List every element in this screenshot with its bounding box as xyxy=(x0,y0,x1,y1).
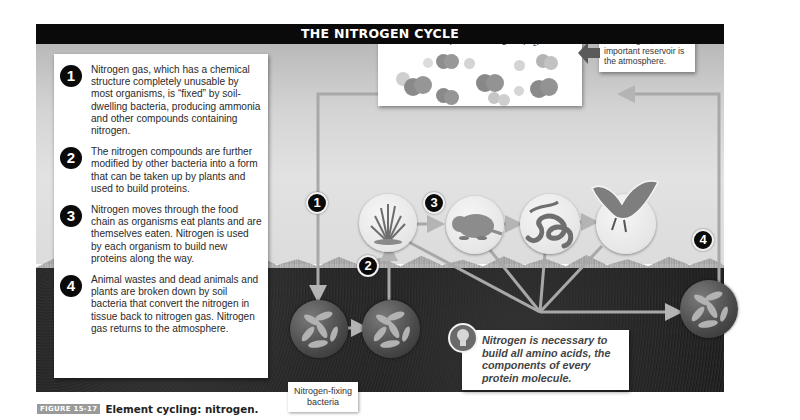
n2-molecule-icon xyxy=(444,90,459,105)
n2-molecule-icon xyxy=(444,54,459,69)
hawk-icon xyxy=(596,194,656,254)
diagram-badge-3: 3 xyxy=(423,192,445,214)
step-text: Animal wastes and dead animals and plant… xyxy=(91,274,262,335)
step-4: 4 Animal wastes and dead animals and pla… xyxy=(60,274,262,335)
amino-acid-note: Nitrogen is necessary to build all amino… xyxy=(462,330,629,390)
figure-number-tag: FIGURE 15-17 xyxy=(37,404,100,414)
nitrifying-bacteria-icon xyxy=(362,300,420,358)
figure-caption-text: Element cycling: nitrogen. xyxy=(105,403,258,415)
nitrogen-fixing-bacteria-label: Nitrogen-fixing bacteria xyxy=(288,382,358,412)
decomposer-bacteria-icon xyxy=(680,280,738,338)
n2-molecule-icon xyxy=(464,58,475,69)
n2-molecule-icon xyxy=(414,76,432,94)
n2-molecule-icon xyxy=(514,60,525,71)
step-2: 2 The nitrogen compounds are further mod… xyxy=(60,146,262,195)
nitrogen-fixing-bacteria-icon xyxy=(290,300,348,358)
step-number-badge: 2 xyxy=(60,147,82,169)
diagram-badge-4: 4 xyxy=(692,229,714,251)
n2-molecule-icon xyxy=(423,58,433,68)
step-text: Nitrogen gas, which has a chemical struc… xyxy=(91,64,262,137)
step-number-badge: 3 xyxy=(60,205,82,227)
step-text: The nitrogen compounds are further modif… xyxy=(91,146,262,195)
grass-icon xyxy=(359,194,417,252)
pointer-arrow-icon xyxy=(578,42,600,64)
step-number-badge: 4 xyxy=(60,275,82,297)
diagram-badge-2: 2 xyxy=(357,255,379,277)
step-1: 1 Nitrogen gas, which has a chemical str… xyxy=(60,64,262,137)
lightbulb-icon xyxy=(448,323,478,353)
n2-molecule-icon xyxy=(498,94,510,106)
steps-panel: 1 Nitrogen gas, which has a chemical str… xyxy=(54,54,268,378)
step-text: Nitrogen moves through the food chain as… xyxy=(91,204,262,265)
snake-icon xyxy=(520,194,580,254)
figure-title: THE NITROGEN CYCLE xyxy=(36,24,724,44)
n2-molecule-icon xyxy=(540,78,558,96)
n2-molecule-icon xyxy=(544,56,558,70)
step-number-badge: 1 xyxy=(60,65,82,87)
gopher-icon xyxy=(446,196,504,254)
step-3: 3 Nitrogen moves through the food chain … xyxy=(60,204,262,265)
diagram-badge-1: 1 xyxy=(306,192,328,214)
figure-caption: FIGURE 15-17 Element cycling: nitrogen. xyxy=(37,403,258,415)
n2-molecule-icon xyxy=(486,74,504,92)
n2-molecule-icon xyxy=(514,86,524,96)
